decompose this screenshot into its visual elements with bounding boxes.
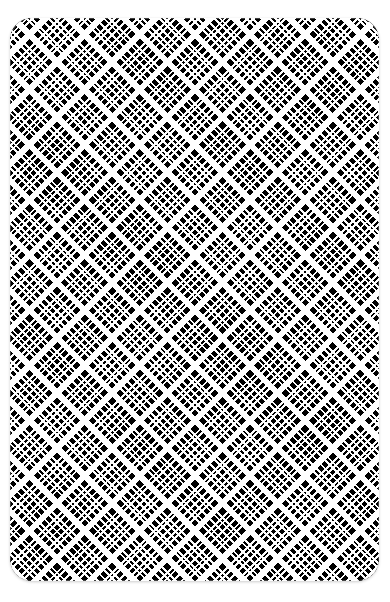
swatch-alt-text: Black and white diagonal tartan plaid pa… [0,0,1,1]
page-canvas: Black and white diagonal tartan plaid pa… [0,0,390,602]
pattern-stripes-diagonal-up [10,18,379,581]
pattern-swatch-card[interactable] [10,18,379,581]
